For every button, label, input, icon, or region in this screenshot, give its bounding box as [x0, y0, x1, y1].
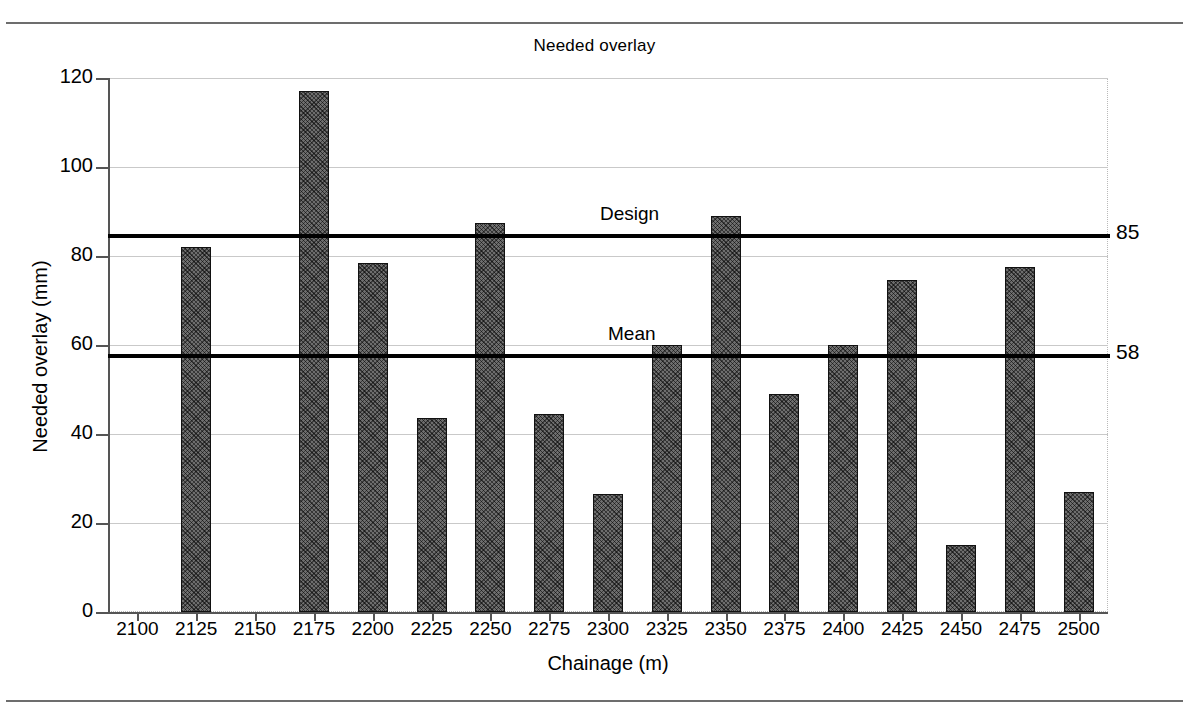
y-tick-label-60: 60 — [71, 332, 93, 355]
bar-2350 — [711, 216, 741, 612]
chart-title: Needed overlay — [0, 36, 1189, 56]
y-axis-title: Needed overlay (mm) — [29, 207, 52, 507]
x-axis-line — [108, 612, 1108, 614]
bar-2200 — [358, 263, 388, 612]
y-tick-label-20: 20 — [71, 510, 93, 533]
y-tick-80 — [96, 256, 108, 258]
gridline-80 — [108, 256, 1108, 257]
bar-2300 — [593, 494, 623, 612]
design-line — [108, 234, 1110, 238]
y-tick-40 — [96, 434, 108, 436]
bar-2225 — [417, 418, 447, 612]
mean-line-label: Mean — [608, 323, 656, 345]
y-axis-line — [108, 78, 110, 612]
bar-2400 — [828, 345, 858, 612]
y-tick-label-40: 40 — [71, 421, 93, 444]
design-line-value-label: 85 — [1116, 220, 1139, 244]
y-tick-0 — [96, 612, 108, 614]
y-tick-100 — [96, 167, 108, 169]
y-tick-label-80: 80 — [71, 243, 93, 266]
bar-2250 — [475, 223, 505, 612]
bar-2425 — [887, 280, 917, 612]
x-tick-label-2500: 2500 — [1044, 618, 1114, 640]
bar-2475 — [1005, 267, 1035, 612]
bar-2175 — [299, 91, 329, 612]
bar-2450 — [946, 545, 976, 612]
y-tick-20 — [96, 523, 108, 525]
y-tick-60 — [96, 345, 108, 347]
gridline-120 — [108, 78, 1108, 79]
gridline-60 — [108, 345, 1108, 346]
y-tick-120 — [96, 78, 108, 80]
bar-2125 — [181, 247, 211, 612]
y-tick-label-120: 120 — [60, 65, 93, 88]
mean-line-value-label: 58 — [1116, 340, 1139, 364]
x-axis-title: Chainage (m) — [108, 652, 1108, 675]
design-line-label: Design — [600, 203, 659, 225]
bar-2275 — [534, 414, 564, 612]
bar-2325 — [652, 345, 682, 612]
needed-overlay-chart: Needed overlay 020406080100120 Design85M… — [0, 0, 1189, 724]
bar-2500 — [1064, 492, 1094, 612]
mean-line — [108, 354, 1110, 358]
y-tick-label-0: 0 — [82, 599, 93, 622]
bar-2375 — [769, 394, 799, 612]
gridline-100 — [108, 167, 1108, 168]
y-tick-label-100: 100 — [60, 154, 93, 177]
gridline-40 — [108, 434, 1108, 435]
